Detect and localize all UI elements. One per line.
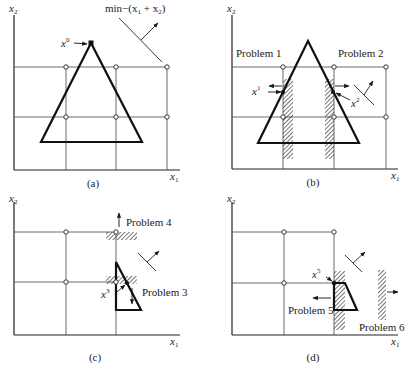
feasible-region-triangle — [41, 43, 142, 142]
problem-4-label: Problem 4 — [126, 216, 172, 228]
problem-2-label: Problem 2 — [338, 47, 384, 59]
x-axis-label: x1 — [169, 335, 179, 349]
objective-direction-arrow — [147, 251, 159, 262]
y-axis-label: x2 — [226, 192, 236, 206]
x2-label: x2 — [350, 96, 360, 109]
feasible-region-triangle — [116, 262, 141, 310]
objective-direction-arrow — [141, 23, 158, 40]
panel-d: x5 Problem 5 Problem 6 x2 x1 (d) — [226, 192, 405, 364]
point-x2 — [331, 90, 335, 94]
x-axis-label: x1 — [390, 335, 400, 349]
x5-label: x5 — [311, 267, 321, 280]
panel-c: x3 Problem 4 Problem 3 x2 x1 (c) — [8, 192, 188, 364]
x5-pointer-arrow — [326, 277, 332, 281]
problem-5-label: Problem 5 — [288, 304, 334, 316]
branch-and-bound-figure: x0 min−(x1 + x2) x2 x1 (a) x1 — [0, 0, 409, 380]
objective-direction-arrow — [353, 252, 365, 263]
panel-b: x1 x2 Problem 1 Problem 2 x2 x1 (b) — [226, 2, 400, 189]
branch-cut-right — [378, 270, 386, 320]
panel-caption: (a) — [87, 177, 100, 190]
x-axis-label: x1 — [390, 169, 400, 183]
problem-6-label: Problem 6 — [359, 321, 405, 333]
integer-grid — [232, 67, 386, 169]
y-axis-label: x2 — [8, 2, 18, 16]
problem-3-label: Problem 3 — [142, 286, 188, 298]
optimal-point-x0 — [89, 41, 94, 46]
panel-a: x0 min−(x1 + x2) x2 x1 (a) — [8, 2, 180, 190]
panel-caption: (b) — [307, 176, 320, 189]
objective-direction-arrow — [364, 81, 373, 95]
x-axis-label: x1 — [169, 170, 179, 184]
panel-caption: (c) — [89, 351, 102, 364]
objective-label: min−(x1 + x2) — [105, 2, 166, 16]
x0-label: x0 — [60, 36, 70, 49]
lattice-points — [282, 230, 336, 285]
branch-cut-bottom — [106, 276, 137, 284]
x3-pointer-arrow — [117, 285, 125, 292]
problem-1-label: Problem 1 — [236, 47, 282, 59]
point-x3 — [125, 281, 129, 285]
y-axis-label: x2 — [226, 2, 236, 16]
x1-label: x1 — [251, 84, 261, 97]
branch-cut-left — [334, 271, 345, 330]
point-x5 — [332, 281, 336, 285]
integer-grid — [14, 67, 167, 170]
panel-caption: (d) — [307, 351, 320, 364]
point-x1 — [281, 90, 285, 94]
x3-label: x3 — [100, 287, 110, 300]
branch-cut-top — [106, 232, 137, 240]
x0-pointer-arrow — [74, 43, 87, 44]
objective-contour-line — [119, 18, 162, 62]
y-axis-label: x2 — [8, 192, 18, 206]
